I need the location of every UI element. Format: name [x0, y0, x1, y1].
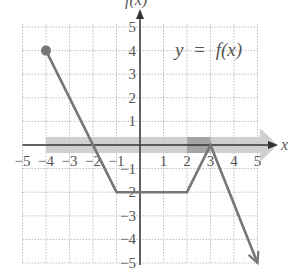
x-axis-label: x: [280, 136, 288, 153]
function-annotation-eq: =: [194, 39, 205, 60]
y-tick-label: 2: [129, 90, 137, 106]
y-tick-label: 1: [129, 113, 137, 129]
y-tick-label: −5: [120, 255, 136, 271]
x-tick-label: 1: [160, 153, 168, 169]
function-line: [46, 51, 258, 263]
y-tick-label: 4: [129, 43, 137, 59]
function-annotation: y = f(x): [173, 39, 242, 61]
x-tick-label: 3: [207, 153, 215, 169]
y-tick-label: −1: [120, 161, 136, 177]
closed-endpoint-dot: [41, 46, 51, 56]
x-tick-label: 4: [230, 153, 238, 169]
y-tick-label: −3: [120, 208, 136, 224]
function-graph: −5−4−3−2−11234554321−1−2−3−4−5 f(x) x y …: [0, 0, 294, 279]
x-tick-label: −4: [38, 153, 54, 169]
function-annotation-y: y: [173, 39, 184, 60]
y-tick-label: −4: [120, 231, 136, 247]
x-tick-label: −3: [62, 153, 78, 169]
x-tick-label: 5: [254, 153, 262, 169]
y-axis-arrow-icon: [136, 9, 144, 19]
y-tick-label: 5: [129, 19, 137, 35]
x-tick-label: −5: [15, 153, 31, 169]
x-tick-label: 2: [183, 153, 191, 169]
y-axis-label: f(x): [125, 0, 147, 9]
function-annotation-fx: f(x): [216, 39, 242, 61]
y-tick-label: 3: [129, 66, 137, 82]
